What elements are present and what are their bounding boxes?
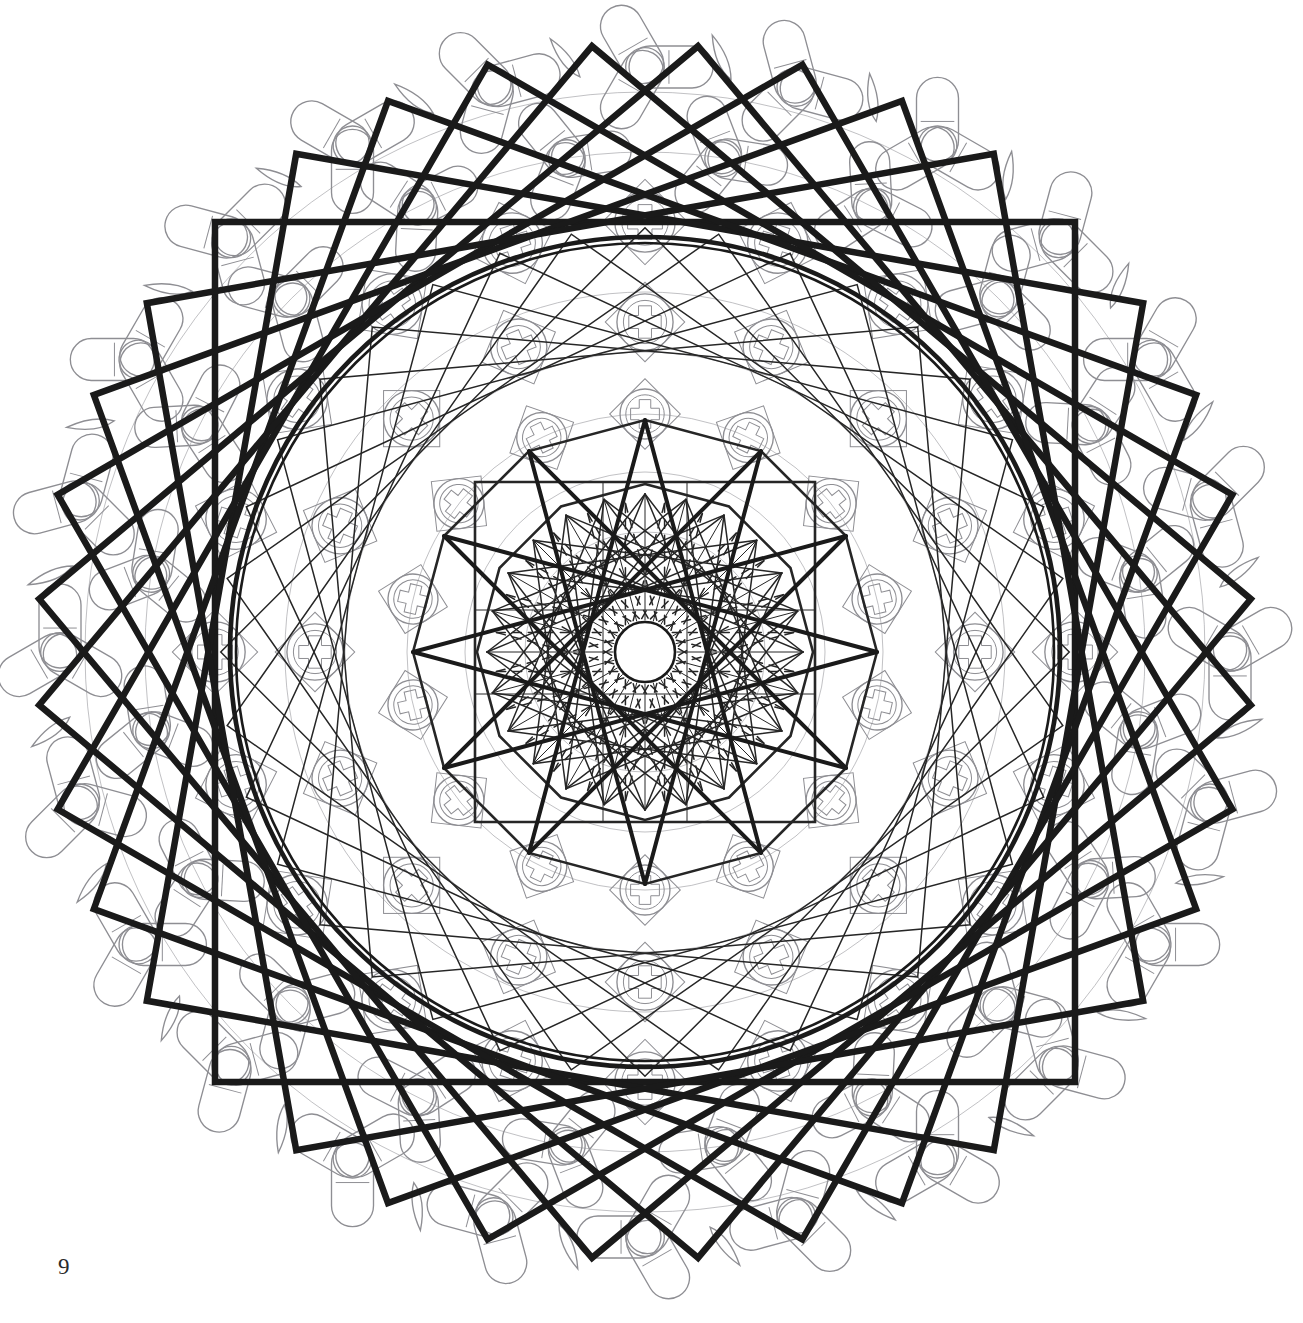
page-canvas: 9 [0, 0, 1303, 1323]
center-hub-layer [615, 622, 675, 682]
page-number: 9 [58, 1255, 70, 1278]
center-hub-circle [615, 622, 675, 682]
mandala-artwork [0, 0, 1303, 1323]
